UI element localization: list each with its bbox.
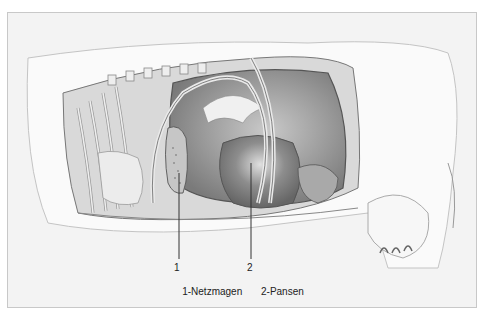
label-number-2: 2 <box>247 262 253 273</box>
anatomy-illustration <box>8 13 477 308</box>
illustration-frame: 1 2 1-Netzmagen 2-Pansen <box>7 12 477 308</box>
label-number-1: 1 <box>174 262 180 273</box>
legend-item-pansen: 2-Pansen <box>261 286 304 297</box>
figure-legend: 1-Netzmagen 2-Pansen <box>8 286 477 297</box>
legend-item-netzmagen: 1-Netzmagen <box>182 286 242 297</box>
